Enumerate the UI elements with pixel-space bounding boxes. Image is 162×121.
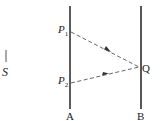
mirror-a-label: A bbox=[66, 110, 74, 121]
q-label: Q bbox=[142, 62, 150, 74]
p1-label: P1 bbox=[57, 23, 69, 38]
mirror-b-label: B bbox=[137, 110, 144, 121]
ray-p2-q bbox=[71, 67, 139, 83]
diagram-canvas: S P1 P2 Q A B bbox=[0, 0, 162, 121]
p2-label: P2 bbox=[57, 74, 69, 89]
source-label: S bbox=[2, 65, 8, 79]
